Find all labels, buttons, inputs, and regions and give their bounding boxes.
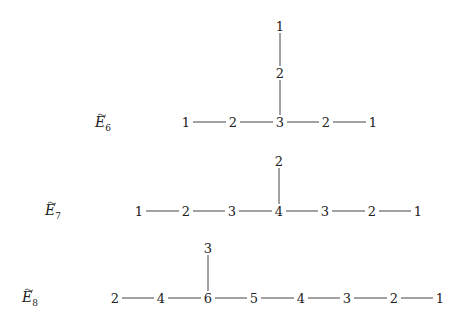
node-label: 4 [297,291,305,306]
node-label: 6 [204,291,212,306]
diagram-e6: E61232121 [94,19,377,134]
extended-dynkin-diagrams: E61232121E712343212E8246543213 [0,0,465,319]
node-label: 3 [343,291,351,306]
node-label: 1 [369,115,377,130]
node-label: 1 [182,115,190,130]
node-label: 3 [228,204,236,219]
node-label: 3 [321,204,329,219]
node-label: 3 [204,241,212,256]
node-label: 4 [157,291,165,306]
node-label: 1 [436,291,444,306]
node-label: 2 [322,115,330,130]
node-label: 1 [414,204,422,219]
node-label: 2 [275,154,283,169]
diagram-label: E8 [21,289,38,308]
node-label: 2 [368,204,376,219]
diagram-e8: E8246543213 [21,241,444,309]
node-label: 3 [276,115,284,130]
diagram-label: E7 [44,202,61,221]
diagram-label: E6 [94,114,111,133]
node-label: 2 [111,291,119,306]
diagram-e7: E712343212 [44,154,422,222]
node-label: 4 [275,204,283,219]
node-label: 2 [276,66,284,81]
node-label: 1 [135,204,143,219]
node-label: 2 [390,291,398,306]
node-label: 5 [250,291,258,306]
node-label: 2 [229,115,237,130]
node-label: 1 [276,19,284,34]
node-label: 2 [182,204,190,219]
